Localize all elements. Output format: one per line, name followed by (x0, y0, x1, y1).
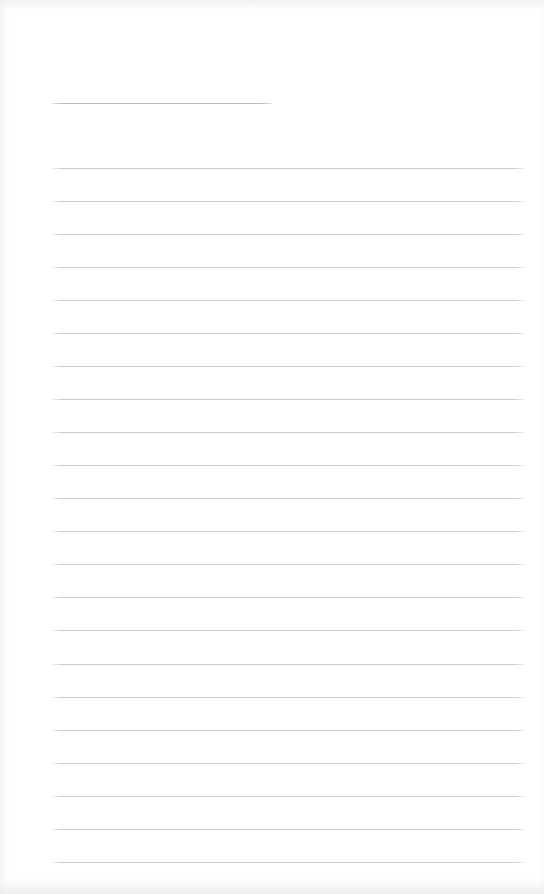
ruled-line[interactable] (53, 630, 524, 631)
title-rule[interactable] (52, 103, 272, 104)
ruled-line[interactable] (53, 862, 524, 863)
ruled-line[interactable] (53, 564, 524, 565)
ruled-line[interactable] (53, 730, 524, 731)
ruled-line[interactable] (53, 697, 524, 698)
scanned-page (0, 0, 544, 894)
ruled-line[interactable] (53, 597, 524, 598)
ruled-line[interactable] (53, 267, 524, 268)
ruled-line[interactable] (53, 399, 524, 400)
ruled-line[interactable] (53, 366, 524, 367)
ruled-line[interactable] (53, 763, 524, 764)
paper-surface (0, 0, 544, 894)
ruled-line[interactable] (53, 201, 524, 202)
ruled-line[interactable] (53, 664, 524, 665)
ruled-line[interactable] (53, 465, 524, 466)
top-scan-edge (0, 0, 544, 10)
ruled-line[interactable] (53, 333, 524, 334)
ruled-line[interactable] (53, 168, 524, 169)
ruled-line[interactable] (53, 498, 524, 499)
ruled-line[interactable] (53, 531, 524, 532)
ruled-line[interactable] (53, 234, 524, 235)
ruled-line[interactable] (53, 829, 524, 830)
bottom-scan-edge (0, 878, 544, 894)
ruled-line[interactable] (53, 432, 524, 433)
ruled-line[interactable] (53, 796, 524, 797)
ruled-line[interactable] (53, 300, 524, 301)
